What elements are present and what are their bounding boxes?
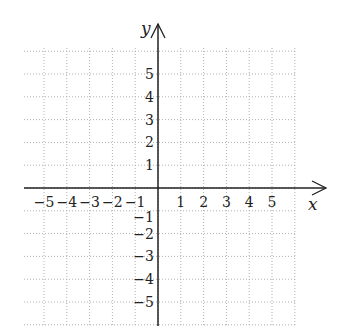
x-tick-labels: −5−4−3−2−112345: [34, 194, 277, 210]
coordinate-plane: x y −5−4−3−2−112345 54321−1−2−3−4−5: [0, 0, 339, 326]
x-tick-label: −3: [79, 194, 100, 210]
x-tick-label: 2: [199, 194, 208, 210]
y-tick-label: 4: [145, 89, 154, 105]
x-tick-label: −5: [34, 194, 55, 210]
y-tick-label: 3: [145, 112, 154, 128]
y-tick-label: −4: [133, 271, 154, 287]
x-tick-label: 3: [222, 194, 231, 210]
x-tick-label: −2: [102, 194, 123, 210]
y-tick-label: −3: [133, 248, 154, 264]
y-tick-label: −1: [133, 209, 154, 225]
x-tick-label: 5: [268, 194, 277, 210]
x-tick-label: 4: [245, 194, 254, 210]
y-tick-label: 1: [145, 157, 154, 173]
y-tick-label: −5: [133, 294, 154, 310]
x-tick-label: −4: [56, 194, 77, 210]
y-axis-label: y: [140, 18, 151, 38]
axes: [24, 24, 326, 326]
y-tick-label: −2: [133, 226, 154, 242]
y-tick-label: 5: [145, 66, 154, 82]
x-tick-label: −1: [125, 194, 146, 210]
grid-lines: [24, 48, 295, 326]
x-axis-label: x: [308, 194, 318, 214]
y-tick-label: 2: [145, 134, 154, 150]
x-tick-label: 1: [176, 194, 185, 210]
